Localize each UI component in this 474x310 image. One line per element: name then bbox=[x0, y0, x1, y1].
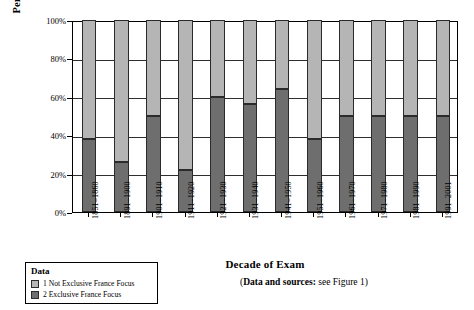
y-tick-label: 40% bbox=[26, 132, 66, 141]
y-tick-label: 0% bbox=[26, 209, 66, 218]
legend-label: 2 Exclusive France Focus bbox=[43, 289, 121, 300]
gridline bbox=[73, 175, 457, 176]
x-tick-mark bbox=[313, 213, 314, 217]
legend-box: Data 1 Not Exclusive France Focus2 Exclu… bbox=[25, 262, 158, 304]
legend-item: 1 Not Exclusive France Focus bbox=[31, 278, 152, 289]
x-tick-mark bbox=[120, 213, 121, 217]
figure-caption: (Data and sources: see Figure 1) bbox=[240, 277, 368, 287]
x-tick-mark bbox=[410, 213, 411, 217]
caption-bold: Data and sources: bbox=[243, 277, 316, 287]
x-tick-mark bbox=[152, 213, 153, 217]
legend-swatch bbox=[31, 291, 39, 299]
y-tick-label: 60% bbox=[26, 94, 66, 103]
x-tick-mark bbox=[88, 213, 89, 217]
y-axis-title: Percent of total exam questions bbox=[10, 0, 24, 42]
y-tick-mark bbox=[67, 21, 72, 22]
x-tick-label: 1901–1910 bbox=[156, 181, 164, 219]
x-tick-label: 1911–1920 bbox=[188, 181, 196, 219]
x-tick-label: 1961–1970 bbox=[349, 181, 357, 219]
legend-items: 1 Not Exclusive France Focus2 Exclusive … bbox=[31, 278, 152, 300]
x-tick-mark bbox=[345, 213, 346, 217]
bar-segment-not-exclusive-france-focus bbox=[339, 20, 354, 116]
x-tick-mark bbox=[281, 213, 282, 217]
legend-title: Data bbox=[31, 266, 152, 277]
x-tick-label: 1851–1860 bbox=[92, 181, 100, 219]
x-tick-mark bbox=[378, 213, 379, 217]
gridline bbox=[73, 98, 457, 99]
x-tick-mark bbox=[217, 213, 218, 217]
x-tick-mark bbox=[185, 213, 186, 217]
caption-rest: see Figure 1) bbox=[316, 277, 368, 287]
y-tick-mark bbox=[67, 59, 72, 60]
x-tick-label: 1921–1930 bbox=[220, 181, 228, 219]
x-tick-label: 1941–1950 bbox=[285, 181, 293, 219]
x-tick-mark bbox=[442, 213, 443, 217]
x-tick-mark bbox=[249, 213, 250, 217]
gridline bbox=[73, 137, 457, 138]
bar-segment-not-exclusive-france-focus bbox=[307, 20, 322, 139]
bar-segment-not-exclusive-france-focus bbox=[146, 20, 161, 116]
x-tick-label: 1971–1980 bbox=[381, 181, 389, 219]
x-tick-label: 1951–1960 bbox=[317, 181, 325, 219]
y-tick-label: 20% bbox=[26, 171, 66, 180]
figure-container: Percent of total exam questions 0%20%40%… bbox=[0, 0, 474, 310]
y-tick-mark bbox=[67, 136, 72, 137]
y-tick-mark bbox=[67, 175, 72, 176]
bar-segment-not-exclusive-france-focus bbox=[275, 20, 290, 89]
y-tick-mark bbox=[67, 213, 72, 214]
y-tick-label: 80% bbox=[26, 55, 66, 64]
bar-segment-not-exclusive-france-focus bbox=[114, 20, 129, 162]
legend-swatch bbox=[31, 280, 39, 288]
y-tick-label: 100% bbox=[26, 17, 66, 26]
bar-segment-not-exclusive-france-focus bbox=[178, 20, 193, 170]
legend-label: 1 Not Exclusive France Focus bbox=[43, 278, 135, 289]
bar-segment-not-exclusive-france-focus bbox=[436, 20, 451, 116]
x-tick-label: 1931–1940 bbox=[252, 181, 260, 219]
bar-segment-not-exclusive-france-focus bbox=[82, 20, 97, 139]
legend-item: 2 Exclusive France Focus bbox=[31, 289, 152, 300]
x-tick-label: 1991–2001 bbox=[445, 181, 453, 219]
bar-segment-not-exclusive-france-focus bbox=[243, 20, 258, 104]
bar-segment-not-exclusive-france-focus bbox=[403, 20, 418, 116]
x-tick-label: 1891–1900 bbox=[124, 181, 132, 219]
y-tick-mark bbox=[67, 98, 72, 99]
bar-segment-not-exclusive-france-focus bbox=[371, 20, 386, 116]
bar-segment-not-exclusive-france-focus bbox=[210, 20, 225, 97]
x-tick-label: 1981–1990 bbox=[413, 181, 421, 219]
gridline bbox=[73, 60, 457, 61]
